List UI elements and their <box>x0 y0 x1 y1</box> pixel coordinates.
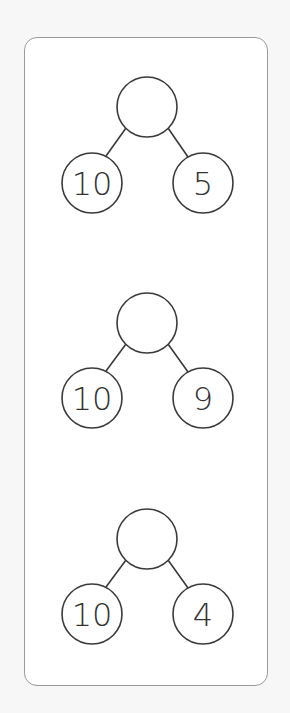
part-value-right: 4 <box>193 596 213 634</box>
bond-line-right <box>168 344 188 372</box>
whole-circle-empty[interactable] <box>117 509 177 569</box>
bond-line-right <box>168 560 188 588</box>
bond-line-left <box>106 560 126 587</box>
number-bond-3: 10 4 <box>62 509 233 644</box>
part-value-right: 5 <box>193 165 213 203</box>
number-bond-1: 10 5 <box>62 77 233 213</box>
whole-circle-empty[interactable] <box>117 77 177 137</box>
part-value-left: 10 <box>72 165 113 203</box>
part-value-left: 10 <box>72 596 113 634</box>
part-value-left: 10 <box>72 380 113 418</box>
bond-line-left <box>106 344 126 371</box>
whole-circle-empty[interactable] <box>117 293 177 353</box>
bond-line-left <box>106 128 126 156</box>
bond-line-right <box>168 128 188 157</box>
number-bond-trees: 10 5 10 9 10 4 <box>0 0 290 713</box>
number-bond-2: 10 9 <box>62 293 233 428</box>
part-value-right: 9 <box>193 380 213 418</box>
